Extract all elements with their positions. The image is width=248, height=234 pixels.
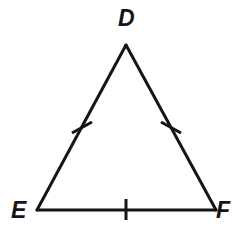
triangle-drawing xyxy=(0,0,248,234)
tick-mark-side-df xyxy=(161,122,181,133)
vertex-label-d: D xyxy=(118,7,135,30)
vertex-label-f: F xyxy=(216,199,230,222)
vertex-label-e: E xyxy=(11,199,26,222)
geometry-figure: D E F xyxy=(0,0,248,234)
